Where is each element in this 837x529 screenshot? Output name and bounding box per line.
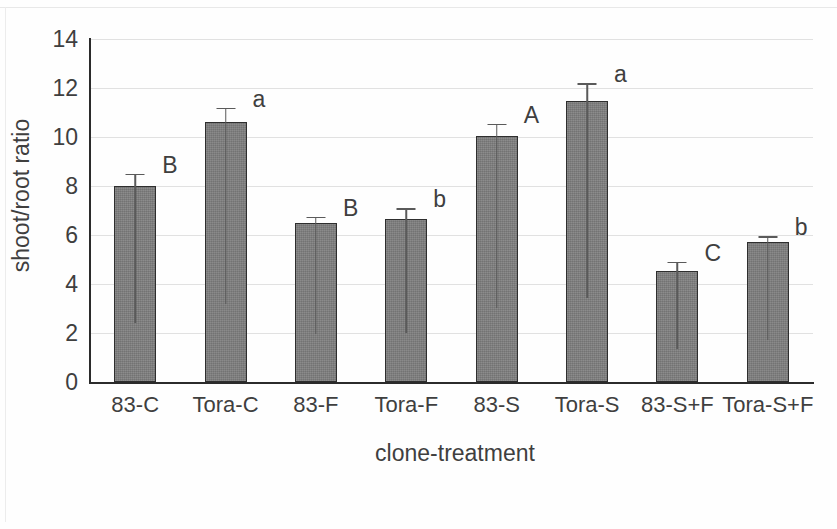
error-bar-cap (668, 262, 687, 264)
significance-label: b (433, 188, 446, 211)
bar-group: A (452, 39, 542, 382)
error-bar (677, 262, 679, 349)
x-axis-tick-label: 83-C (111, 394, 159, 416)
x-axis-tick-label: 83-S+F (641, 394, 714, 416)
significance-label: B (162, 154, 177, 177)
y-axis-line (89, 38, 91, 384)
significance-label: a (253, 88, 266, 111)
significance-label: a (614, 63, 627, 86)
x-axis-tick-label: Tora-S (555, 394, 620, 416)
bar-group: B (90, 39, 180, 382)
y-axis-title: shoot/root ratio (8, 31, 35, 361)
bar-group: a (542, 39, 632, 382)
x-axis-line (89, 382, 814, 384)
bar-group: b (723, 39, 813, 382)
error-bar (225, 108, 227, 304)
scan-border-top (0, 7, 837, 8)
error-bar-cap (216, 108, 235, 110)
significance-label: B (343, 197, 358, 220)
x-axis-tick-label: Tora-C (193, 394, 259, 416)
error-bar (767, 236, 769, 340)
x-axis-tick-label: Tora-F (375, 394, 439, 416)
error-bar-cap (578, 83, 597, 85)
error-bar-cap (758, 236, 777, 238)
error-bar (496, 124, 498, 309)
bar-group: C (632, 39, 722, 382)
significance-label: A (524, 104, 539, 127)
error-bar (406, 208, 408, 333)
error-bar (586, 83, 588, 298)
bar-group: B (271, 39, 361, 382)
y-axis-tick-label: 0 (8, 371, 78, 394)
error-bar-cap (306, 217, 325, 219)
x-axis-tick-label: 83-F (293, 394, 338, 416)
error-bar (315, 217, 317, 335)
x-axis-title: clone-treatment (0, 440, 837, 467)
error-bar-cap (487, 124, 506, 126)
error-bar (134, 174, 136, 323)
x-axis-tick-labels: 83-CTora-C83-FTora-F83-STora-S83-S+FTora… (90, 394, 813, 428)
x-axis-tick-label: Tora-S+F (722, 394, 813, 416)
bar-group: b (361, 39, 451, 382)
bar-group: a (180, 39, 270, 382)
plot-area: BaBbAaCb (90, 39, 813, 382)
error-bar-cap (397, 208, 416, 210)
error-bar-cap (126, 174, 145, 176)
significance-label: C (704, 242, 721, 265)
significance-label: b (795, 216, 808, 239)
x-axis-tick-label: 83-S (473, 394, 519, 416)
bar-chart-figure: 02468101214 shoot/root ratio BaBbAaCb 83… (0, 0, 837, 529)
